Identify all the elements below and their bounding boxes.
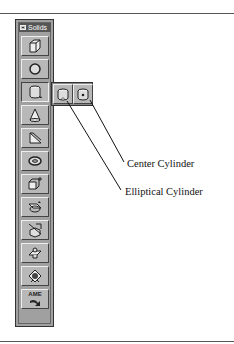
toolbar-titlebar[interactable]: Solids	[19, 23, 51, 32]
extrude-icon	[27, 176, 43, 192]
sphere-button[interactable]	[21, 59, 49, 79]
section-icon	[27, 245, 43, 261]
box-button[interactable]	[21, 36, 49, 56]
interfere-icon	[27, 268, 43, 284]
revolve-button[interactable]	[21, 197, 49, 217]
cone-icon	[27, 107, 43, 123]
section-button[interactable]	[21, 243, 49, 263]
cylinder-icon	[27, 84, 43, 100]
cylinder-button[interactable]	[21, 82, 49, 102]
sphere-icon	[28, 62, 42, 76]
top-rule	[0, 13, 234, 14]
box-icon	[27, 38, 43, 54]
elliptical-cylinder-callout: Elliptical Cylinder	[125, 186, 203, 197]
torus-icon	[27, 153, 43, 169]
revolve-icon	[27, 199, 43, 215]
ame-text: AME	[28, 291, 41, 298]
center-cylinder-button[interactable]	[53, 84, 73, 104]
torus-button[interactable]	[21, 151, 49, 171]
ame-icon	[28, 298, 42, 307]
center-cylinder-callout: Center Cylinder	[127, 158, 194, 169]
wedge-button[interactable]	[21, 128, 49, 148]
slice-button[interactable]	[21, 220, 49, 240]
wedge-icon	[27, 130, 43, 146]
solids-toolbar: Solids AME	[15, 19, 54, 327]
system-menu-icon[interactable]	[20, 25, 26, 30]
elliptical-cylinder-icon	[76, 87, 90, 101]
slice-icon	[27, 222, 43, 238]
cylinder-flyout	[51, 82, 93, 106]
bottom-rule	[0, 341, 234, 342]
center-cylinder-icon	[56, 87, 70, 101]
cone-button[interactable]	[21, 105, 49, 125]
extrude-button[interactable]	[21, 174, 49, 194]
interference-button[interactable]	[21, 266, 49, 286]
toolbar-title: Solids	[28, 23, 47, 32]
elliptical-cylinder-button[interactable]	[73, 84, 93, 104]
ame-convert-button[interactable]: AME	[21, 289, 49, 309]
